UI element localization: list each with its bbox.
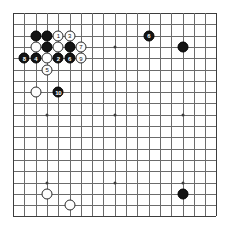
grid-line-vertical: [137, 13, 138, 216]
grid-line-vertical: [103, 13, 104, 216]
star-point: [113, 113, 116, 116]
star-point: [181, 113, 184, 116]
stone-move-number: 6: [68, 55, 71, 61]
black-stone[interactable]: 6: [64, 53, 75, 64]
star-point: [45, 113, 48, 116]
star-point: [181, 181, 184, 184]
grid-line-vertical: [194, 13, 195, 216]
go-board[interactable]: 137842695106: [0, 0, 235, 242]
grid-line-vertical: [216, 13, 217, 216]
grid-line-vertical: [160, 13, 161, 216]
star-point: [113, 45, 116, 48]
black-stone[interactable]: [177, 188, 188, 199]
black-stone[interactable]: 8: [19, 53, 30, 64]
white-stone[interactable]: 1: [53, 30, 64, 41]
stone-move-number: 7: [79, 44, 82, 50]
grid-line-vertical: [24, 13, 25, 216]
stone-move-number: 6: [147, 33, 150, 39]
black-stone[interactable]: [64, 41, 75, 52]
white-stone[interactable]: 3: [64, 30, 75, 41]
grid-line-vertical: [205, 13, 206, 216]
star-point: [113, 181, 116, 184]
white-stone[interactable]: [41, 53, 52, 64]
black-stone[interactable]: [41, 30, 52, 41]
white-stone[interactable]: [53, 41, 64, 52]
black-stone[interactable]: 4: [30, 53, 41, 64]
stone-move-number: 1: [57, 33, 60, 39]
white-stone[interactable]: 7: [75, 41, 86, 52]
grid-line-vertical: [126, 13, 127, 216]
white-stone[interactable]: [41, 188, 52, 199]
stone-move-number: 3: [68, 33, 71, 39]
stone-move-number: 9: [79, 55, 82, 61]
black-stone[interactable]: [177, 41, 188, 52]
stone-move-number: 10: [55, 89, 61, 95]
grid-line-vertical: [149, 13, 150, 216]
star-point: [45, 181, 48, 184]
black-stone[interactable]: 2: [53, 53, 64, 64]
grid-line-vertical: [13, 13, 14, 216]
stone-move-number: 2: [57, 55, 60, 61]
white-stone[interactable]: 5: [41, 64, 52, 75]
black-stone[interactable]: [30, 30, 41, 41]
white-stone[interactable]: [30, 41, 41, 52]
go-diagram-root: 137842695106: [0, 0, 235, 242]
white-stone[interactable]: 9: [75, 53, 86, 64]
stone-move-number: 4: [34, 55, 37, 61]
grid-line-vertical: [171, 13, 172, 216]
black-stone[interactable]: 6: [143, 30, 154, 41]
white-stone[interactable]: [30, 87, 41, 98]
white-stone[interactable]: [64, 200, 75, 211]
stone-move-number: 5: [45, 67, 48, 73]
black-stone[interactable]: [41, 41, 52, 52]
grid-line-vertical: [92, 13, 93, 216]
stone-move-number: 8: [23, 55, 26, 61]
black-stone[interactable]: 10: [53, 87, 64, 98]
